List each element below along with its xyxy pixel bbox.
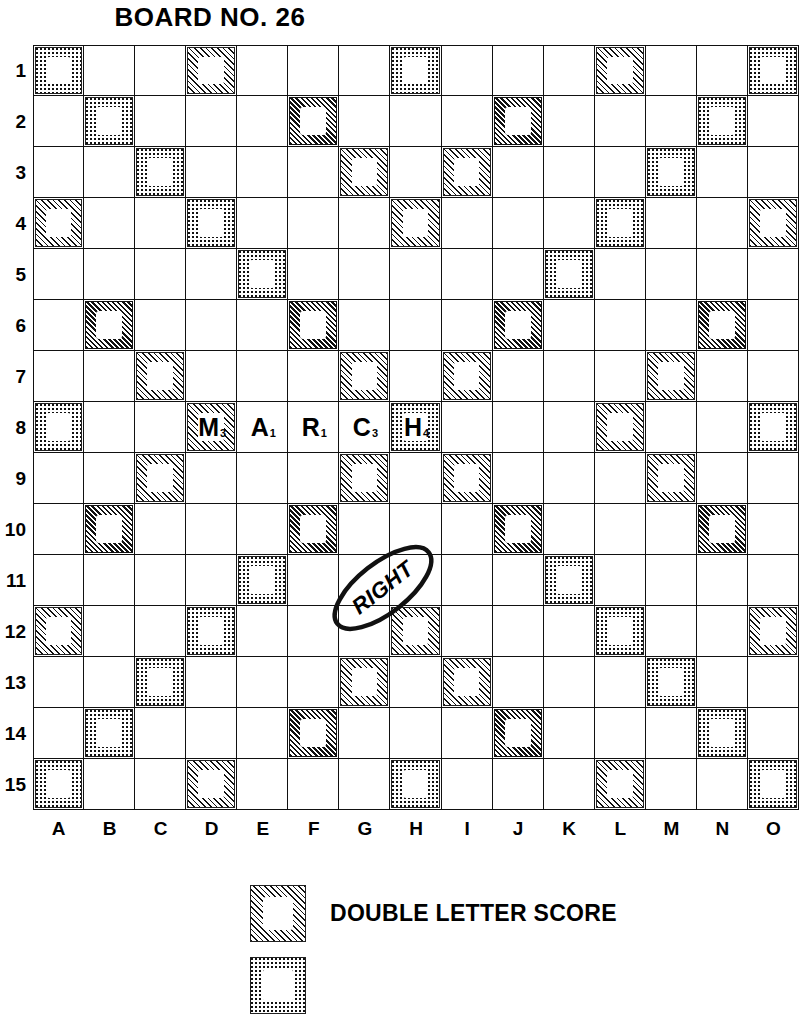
board-cell-G5[interactable] (339, 249, 390, 300)
board-cell-F14[interactable] (288, 708, 339, 759)
board-cell-H2[interactable] (390, 96, 441, 147)
board-cell-O14[interactable] (748, 708, 799, 759)
board-cell-C3[interactable] (135, 147, 186, 198)
board-cell-I7[interactable] (442, 351, 493, 402)
board-cell-F6[interactable] (288, 300, 339, 351)
board-cell-J3[interactable] (493, 147, 544, 198)
board-cell-K15[interactable] (544, 759, 595, 810)
board-cell-G14[interactable] (339, 708, 390, 759)
board-cell-A1[interactable] (33, 45, 84, 96)
board-cell-N3[interactable] (697, 147, 748, 198)
board-cell-D12[interactable] (186, 606, 237, 657)
board-cell-J10[interactable] (493, 504, 544, 555)
board-cell-C12[interactable] (135, 606, 186, 657)
board-cell-K4[interactable] (544, 198, 595, 249)
board-cell-K9[interactable] (544, 453, 595, 504)
board-cell-J4[interactable] (493, 198, 544, 249)
board-cell-L3[interactable] (595, 147, 646, 198)
board-cell-D15[interactable] (186, 759, 237, 810)
board-cell-B13[interactable] (84, 657, 135, 708)
board-cell-E12[interactable] (237, 606, 288, 657)
board-cell-L5[interactable] (595, 249, 646, 300)
board-cell-C15[interactable] (135, 759, 186, 810)
board-cell-A10[interactable] (33, 504, 84, 555)
board-cell-I5[interactable] (442, 249, 493, 300)
board-cell-K7[interactable] (544, 351, 595, 402)
board-cell-G3[interactable] (339, 147, 390, 198)
board-cell-C10[interactable] (135, 504, 186, 555)
board-cell-N12[interactable] (697, 606, 748, 657)
board-cell-H13[interactable] (390, 657, 441, 708)
board-cell-B10[interactable] (84, 504, 135, 555)
board-cell-A14[interactable] (33, 708, 84, 759)
board-cell-N11[interactable] (697, 555, 748, 606)
board-cell-D9[interactable] (186, 453, 237, 504)
board-cell-N1[interactable] (697, 45, 748, 96)
board-cell-K8[interactable] (544, 402, 595, 453)
board-cell-A7[interactable] (33, 351, 84, 402)
board-cell-M10[interactable] (646, 504, 697, 555)
board-cell-H15[interactable] (390, 759, 441, 810)
board-cell-B1[interactable] (84, 45, 135, 96)
board-cell-L7[interactable] (595, 351, 646, 402)
board-cell-I14[interactable] (442, 708, 493, 759)
board-cell-O8[interactable] (748, 402, 799, 453)
board-cell-L2[interactable] (595, 96, 646, 147)
board-cell-I2[interactable] (442, 96, 493, 147)
board-cell-A13[interactable] (33, 657, 84, 708)
board-cell-O13[interactable] (748, 657, 799, 708)
board-cell-D4[interactable] (186, 198, 237, 249)
board-cell-A15[interactable] (33, 759, 84, 810)
board-cell-E9[interactable] (237, 453, 288, 504)
board-cell-A5[interactable] (33, 249, 84, 300)
board-cell-J6[interactable] (493, 300, 544, 351)
board-cell-C13[interactable] (135, 657, 186, 708)
board-cell-M12[interactable] (646, 606, 697, 657)
board-cell-J1[interactable] (493, 45, 544, 96)
board-cell-E2[interactable] (237, 96, 288, 147)
board-cell-L15[interactable] (595, 759, 646, 810)
board-cell-B14[interactable] (84, 708, 135, 759)
board-cell-H9[interactable] (390, 453, 441, 504)
board-cell-O12[interactable] (748, 606, 799, 657)
board-cell-H6[interactable] (390, 300, 441, 351)
board-cell-F3[interactable] (288, 147, 339, 198)
board-cell-D5[interactable] (186, 249, 237, 300)
board-cell-A8[interactable] (33, 402, 84, 453)
board-cell-H7[interactable] (390, 351, 441, 402)
board-cell-N14[interactable] (697, 708, 748, 759)
board-cell-M8[interactable] (646, 402, 697, 453)
board-cell-K13[interactable] (544, 657, 595, 708)
board-cell-L12[interactable] (595, 606, 646, 657)
board-cell-F13[interactable] (288, 657, 339, 708)
board-cell-A3[interactable] (33, 147, 84, 198)
board-cell-K6[interactable] (544, 300, 595, 351)
board-cell-L13[interactable] (595, 657, 646, 708)
board-cell-N5[interactable] (697, 249, 748, 300)
board-cell-B6[interactable] (84, 300, 135, 351)
board-cell-K14[interactable] (544, 708, 595, 759)
board-cell-F7[interactable] (288, 351, 339, 402)
board-cell-K12[interactable] (544, 606, 595, 657)
board-cell-J7[interactable] (493, 351, 544, 402)
board-cell-C11[interactable] (135, 555, 186, 606)
board-cell-I6[interactable] (442, 300, 493, 351)
board-cell-M6[interactable] (646, 300, 697, 351)
board-cell-A4[interactable] (33, 198, 84, 249)
board-cell-C4[interactable] (135, 198, 186, 249)
board-cell-E3[interactable] (237, 147, 288, 198)
board-cell-I12[interactable] (442, 606, 493, 657)
board-cell-F2[interactable] (288, 96, 339, 147)
board-cell-J14[interactable] (493, 708, 544, 759)
board-cell-G9[interactable] (339, 453, 390, 504)
board-cell-A6[interactable] (33, 300, 84, 351)
board-cell-F1[interactable] (288, 45, 339, 96)
board-cell-O4[interactable] (748, 198, 799, 249)
board-cell-E14[interactable] (237, 708, 288, 759)
board-cell-B2[interactable] (84, 96, 135, 147)
board-cell-G1[interactable] (339, 45, 390, 96)
board-cell-M15[interactable] (646, 759, 697, 810)
board-cell-E15[interactable] (237, 759, 288, 810)
board-cell-B15[interactable] (84, 759, 135, 810)
board-cell-J15[interactable] (493, 759, 544, 810)
